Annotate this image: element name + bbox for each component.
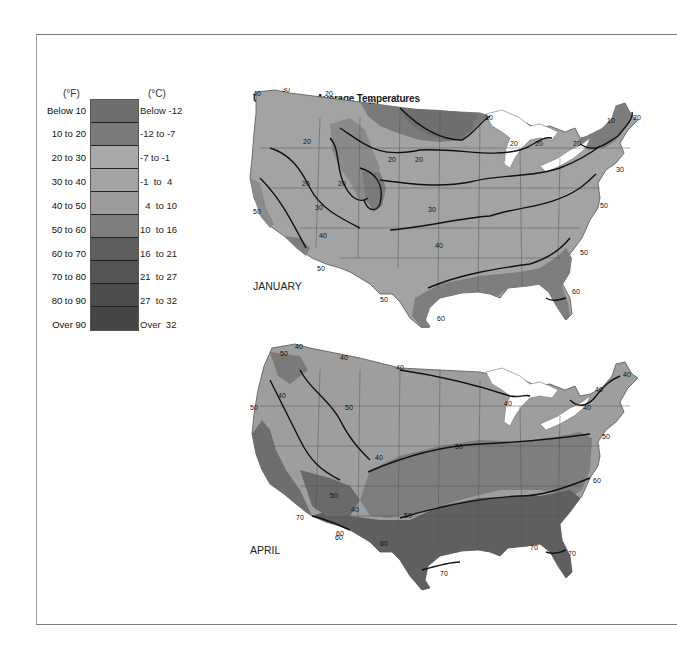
- legend-f-label: Over 90: [40, 319, 86, 330]
- svg-text:50: 50: [380, 296, 388, 303]
- legend-f-label: 40 to 50: [40, 200, 86, 211]
- legend-c-label: -1 to 4: [140, 176, 172, 187]
- april-label: APRIL: [250, 544, 280, 556]
- svg-text:20: 20: [535, 140, 543, 147]
- legend-header-fahrenheit: (°F): [63, 88, 80, 99]
- legend-swatch: [91, 307, 138, 330]
- svg-text:40: 40: [435, 242, 443, 249]
- april-map: 50 40 40 40 40 50 40 50 40 40 40 40 50 5…: [240, 340, 660, 600]
- svg-text:20: 20: [325, 90, 333, 97]
- svg-text:40: 40: [295, 343, 303, 350]
- svg-text:60: 60: [380, 540, 388, 547]
- svg-text:40: 40: [278, 392, 286, 399]
- legend-c-label: Below -12: [140, 105, 182, 116]
- svg-text:40: 40: [351, 506, 359, 513]
- svg-text:40: 40: [583, 404, 591, 411]
- svg-text:20: 20: [303, 138, 311, 145]
- svg-text:10: 10: [368, 98, 376, 105]
- svg-text:50: 50: [345, 404, 353, 411]
- legend-f-label: 10 to 20: [40, 128, 86, 139]
- svg-text:50: 50: [253, 208, 261, 215]
- svg-text:30: 30: [616, 166, 624, 173]
- svg-text:20: 20: [338, 180, 346, 187]
- legend-c-label: 10 to 16: [140, 224, 177, 235]
- legend-swatch: [91, 169, 138, 192]
- svg-text:60: 60: [593, 477, 601, 484]
- january-label: JANUARY: [253, 280, 302, 292]
- svg-text:60: 60: [437, 315, 445, 322]
- legend-swatch: [91, 261, 138, 284]
- legend-swatch: [91, 284, 138, 307]
- legend-c-label: 4 to 10: [140, 200, 177, 211]
- legend-c-label: Over 32: [140, 319, 176, 330]
- svg-text:20: 20: [388, 156, 396, 163]
- svg-text:40: 40: [623, 371, 631, 378]
- legend-c-label: -12 to -7: [140, 128, 175, 139]
- legend-swatch: [91, 146, 138, 169]
- svg-text:50: 50: [455, 443, 463, 450]
- legend-swatch: [91, 215, 138, 238]
- svg-text:10: 10: [607, 117, 615, 124]
- svg-text:20: 20: [510, 140, 518, 147]
- svg-text:50: 50: [404, 512, 412, 519]
- legend-f-label: 70 to 80: [40, 271, 86, 282]
- svg-text:40: 40: [340, 354, 348, 361]
- svg-text:50: 50: [602, 433, 610, 440]
- svg-text:70: 70: [296, 514, 304, 521]
- svg-text:30: 30: [315, 204, 323, 211]
- legend-c-label: -7 to -1: [140, 152, 170, 163]
- january-map: 40 30 20 10 10 20 20 20 10 20 20 20 20 3…: [240, 88, 660, 328]
- svg-text:40: 40: [375, 454, 383, 461]
- svg-text:40: 40: [253, 90, 261, 97]
- svg-text:50: 50: [600, 202, 608, 209]
- svg-text:60: 60: [572, 288, 580, 295]
- legend-f-label: 30 to 40: [40, 176, 86, 187]
- legend-swatch: [91, 123, 138, 146]
- legend-swatch: [91, 192, 138, 215]
- svg-text:30: 30: [282, 88, 290, 93]
- legend-swatch: [91, 100, 138, 123]
- svg-text:10: 10: [485, 114, 493, 121]
- svg-text:20: 20: [415, 156, 423, 163]
- svg-text:20: 20: [302, 180, 310, 187]
- svg-text:40: 40: [595, 386, 603, 393]
- svg-text:30: 30: [428, 206, 436, 213]
- svg-text:50: 50: [280, 350, 288, 357]
- legend-c-label: 27 to 32: [140, 295, 177, 306]
- legend-f-label: 60 to 70: [40, 248, 86, 259]
- legend-c-label: 21 to 27: [140, 271, 177, 282]
- legend-c-label: 16 to 21: [140, 248, 177, 259]
- svg-text:20: 20: [633, 114, 641, 121]
- legend-f-label: 80 to 90: [40, 295, 86, 306]
- legend-f-label: 50 to 60: [40, 224, 86, 235]
- legend-f-label: Below 10: [40, 105, 86, 116]
- svg-text:50: 50: [317, 265, 325, 272]
- svg-text:40: 40: [396, 364, 404, 371]
- svg-text:70: 70: [568, 550, 576, 557]
- legend-header-celsius: (°C): [148, 88, 166, 99]
- svg-text:60: 60: [335, 534, 343, 541]
- svg-text:70: 70: [530, 544, 538, 551]
- legend-color-bar: [90, 99, 139, 331]
- svg-text:50: 50: [330, 492, 338, 499]
- svg-text:50: 50: [250, 404, 258, 411]
- legend-swatch: [91, 238, 138, 261]
- legend-f-label: 20 to 30: [40, 152, 86, 163]
- svg-text:40: 40: [504, 400, 512, 407]
- svg-text:40: 40: [319, 232, 327, 239]
- svg-text:70: 70: [440, 570, 448, 577]
- svg-text:20: 20: [573, 140, 581, 147]
- svg-text:50: 50: [580, 249, 588, 256]
